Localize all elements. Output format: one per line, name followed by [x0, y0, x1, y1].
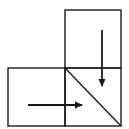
bottom-left-cell — [8, 68, 65, 126]
top-cell — [65, 10, 121, 68]
diagonal-line — [65, 68, 121, 126]
diagram-canvas — [0, 0, 129, 129]
